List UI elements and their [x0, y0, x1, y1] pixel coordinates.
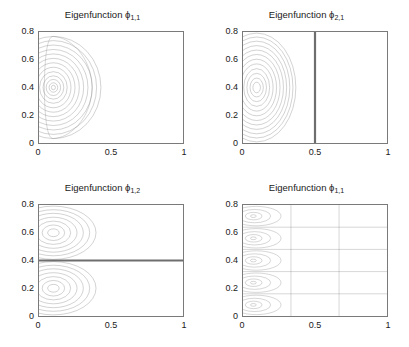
- y-tick-label: 0.2: [212, 111, 238, 120]
- y-tick-label: 0.2: [212, 284, 238, 293]
- y-tick-label: 0: [8, 312, 34, 321]
- y-tick-label: 0.8: [212, 200, 238, 209]
- nodal-grid: [243, 205, 387, 316]
- x-tick-label: 0.5: [305, 321, 325, 330]
- y-tick-label: 0.4: [212, 83, 238, 92]
- contour-canvas: [243, 32, 387, 143]
- title-subscript: 1,1: [334, 187, 344, 194]
- contour-canvas: [243, 205, 387, 316]
- y-tick-label: 0.4: [8, 83, 34, 92]
- y-tick-label: 0: [8, 139, 34, 148]
- contour-canvas: [39, 205, 183, 316]
- subplot-phi-1-1-refined: Eigenfunction ϕ1,1: [204, 173, 409, 347]
- y-tick-label: 0.2: [8, 111, 34, 120]
- subplot-title: Eigenfunction ϕ1,2: [0, 182, 205, 197]
- y-tick-label: 0.6: [212, 228, 238, 237]
- x-tick-label: 0.5: [101, 321, 121, 330]
- title-text: Eigenfunction ϕ: [65, 9, 131, 20]
- y-tick-label: 0: [212, 139, 238, 148]
- x-tick-label: 1: [174, 321, 194, 330]
- x-tick-label: 0: [232, 148, 252, 157]
- subplot-phi-2-1: Eigenfunction ϕ2,1: [204, 0, 409, 174]
- x-tick-label: 0: [28, 321, 48, 330]
- y-tick-label: 0.4: [212, 256, 238, 265]
- title-subscript: 2,1: [334, 14, 344, 21]
- subplot-phi-1-1: Eigenfunction ϕ1,1: [0, 0, 205, 174]
- x-tick-label: 1: [378, 148, 398, 157]
- title-subscript: 1,1: [130, 14, 140, 21]
- subplot-title: Eigenfunction ϕ1,1: [0, 9, 205, 24]
- eigenfunction-figure: Eigenfunction ϕ1,1: [0, 0, 409, 347]
- x-tick-label: 0: [28, 148, 48, 157]
- plot-area: [242, 204, 388, 317]
- y-tick-label: 0.8: [8, 27, 34, 36]
- title-text: Eigenfunction ϕ: [269, 182, 335, 193]
- y-tick-label: 0.6: [212, 55, 238, 64]
- y-tick-label: 0.8: [8, 200, 34, 209]
- y-tick-label: 0.4: [8, 256, 34, 265]
- x-tick-label: 0.5: [101, 148, 121, 157]
- y-tick-label: 0: [212, 312, 238, 321]
- plot-area: [38, 204, 184, 317]
- title-subscript: 1,2: [130, 187, 140, 194]
- y-tick-label: 0.6: [8, 228, 34, 237]
- x-tick-label: 0: [232, 321, 252, 330]
- plot-area: [242, 31, 388, 144]
- y-tick-label: 0.6: [8, 55, 34, 64]
- plot-area: [38, 31, 184, 144]
- subplot-title: Eigenfunction ϕ2,1: [204, 9, 409, 24]
- subplot-phi-1-2: Eigenfunction ϕ1,2: [0, 173, 205, 347]
- x-tick-label: 1: [378, 321, 398, 330]
- y-tick-label: 0.2: [8, 284, 34, 293]
- title-text: Eigenfunction ϕ: [269, 9, 335, 20]
- y-tick-label: 0.8: [212, 27, 238, 36]
- x-tick-label: 0.5: [305, 148, 325, 157]
- contour-canvas: [39, 32, 183, 143]
- title-text: Eigenfunction ϕ: [65, 182, 131, 193]
- subplot-title: Eigenfunction ϕ1,1: [204, 182, 409, 197]
- x-tick-label: 1: [174, 148, 194, 157]
